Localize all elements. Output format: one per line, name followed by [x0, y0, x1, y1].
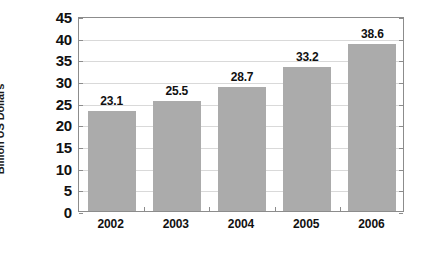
- y-axis-tick-label: 20: [56, 118, 72, 133]
- x-axis-tick-label: 2004: [208, 218, 273, 230]
- x-axis-tick-mark: [340, 207, 341, 211]
- y-axis-tick-label: 35: [56, 53, 72, 68]
- bar-group: 28.7: [218, 18, 266, 211]
- bar: [88, 111, 136, 211]
- bar-value-label: 28.7: [218, 71, 266, 83]
- y-axis-tick-label: 40: [56, 31, 72, 46]
- bar-group: 23.1: [88, 18, 136, 211]
- bars-layer: 23.125.528.733.238.6: [79, 18, 403, 211]
- bar-group: 38.6: [348, 18, 396, 211]
- x-axis-tick-labels: 20022003200420052006: [78, 218, 404, 240]
- bar-group: 25.5: [153, 18, 201, 211]
- plot-area: 23.125.528.733.238.6: [78, 17, 404, 212]
- x-axis-tick-mark: [144, 207, 145, 211]
- y-axis-tick-label: 30: [56, 75, 72, 90]
- y-axis-tick-label: 10: [56, 161, 72, 176]
- y-axis-title: Billion US Dollars: [0, 0, 24, 258]
- x-axis-tick-mark: [209, 207, 210, 211]
- bar: [218, 87, 266, 211]
- y-axis-tick-labels: 051015202530354045: [40, 17, 72, 212]
- y-axis-tick-label: 0: [64, 205, 72, 220]
- x-axis-tick-label: 2006: [339, 218, 404, 230]
- bar: [283, 67, 331, 211]
- bar: [348, 44, 396, 211]
- x-axis-tick-mark: [275, 207, 276, 211]
- bar-group: 33.2: [283, 18, 331, 211]
- bar-chart: Billion US Dollars 051015202530354045 23…: [0, 0, 428, 258]
- bar-value-label: 38.6: [348, 28, 396, 40]
- bar: [153, 101, 201, 212]
- bar-value-label: 25.5: [153, 85, 201, 97]
- bar-value-label: 23.1: [88, 95, 136, 107]
- x-axis-tick-label: 2003: [143, 218, 208, 230]
- y-axis-tick-mark: [399, 213, 403, 214]
- y-axis-tick-label: 15: [56, 140, 72, 155]
- y-axis-tick-label: 45: [56, 10, 72, 25]
- bar-value-label: 33.2: [283, 51, 331, 63]
- x-axis-tick-label: 2002: [78, 218, 143, 230]
- y-axis-tick-mark: [79, 213, 83, 214]
- x-axis-tick-label: 2005: [274, 218, 339, 230]
- y-axis-tick-label: 5: [64, 183, 72, 198]
- y-axis-tick-label: 25: [56, 96, 72, 111]
